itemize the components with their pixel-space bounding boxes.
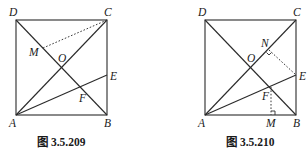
figure-3-5-210: D C A B E F M N O 图 3.5.210 bbox=[197, 6, 306, 148]
dashed-segment-en bbox=[269, 50, 296, 75]
right-angle-mark-m bbox=[271, 111, 275, 115]
label-c: C bbox=[104, 6, 112, 18]
label-m: M bbox=[28, 46, 40, 58]
label-d: D bbox=[197, 6, 207, 18]
label-f: F bbox=[261, 90, 270, 102]
label-e: E bbox=[298, 70, 306, 82]
label-m: M bbox=[265, 117, 277, 129]
label-e: E bbox=[109, 70, 117, 82]
figure-caption: 图 3.5.209 bbox=[37, 135, 86, 148]
geometry-figures: D C A B E F M O 图 3.5.209 D C A B E F M … bbox=[0, 0, 307, 160]
label-c: C bbox=[293, 6, 301, 18]
label-b: B bbox=[104, 117, 111, 129]
label-d: D bbox=[8, 6, 18, 18]
segment-ae bbox=[205, 75, 296, 115]
dashed-segment-cm bbox=[43, 20, 107, 48]
right-angle-mark-n bbox=[267, 53, 272, 56]
label-o: O bbox=[58, 52, 67, 64]
label-b: B bbox=[293, 117, 300, 129]
segment-ae bbox=[16, 75, 107, 115]
label-f: F bbox=[78, 92, 87, 104]
label-o: O bbox=[247, 52, 256, 64]
label-n: N bbox=[260, 37, 270, 49]
label-a: A bbox=[197, 117, 206, 129]
figure-3-5-209: D C A B E F M O 图 3.5.209 bbox=[8, 6, 117, 148]
figure-caption: 图 3.5.210 bbox=[226, 135, 275, 148]
label-a: A bbox=[8, 117, 17, 129]
